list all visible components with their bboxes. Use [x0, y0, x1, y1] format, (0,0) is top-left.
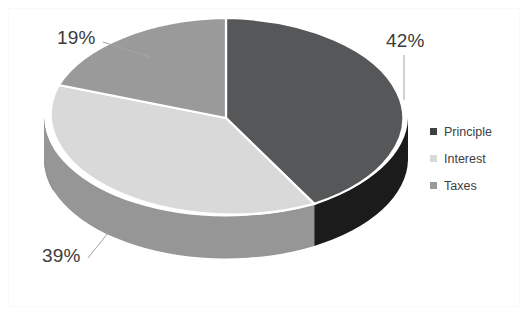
legend-swatch-principle-icon: [430, 128, 437, 135]
data-label-taxes: 19%: [57, 27, 96, 49]
legend-item-interest[interactable]: Interest: [430, 145, 526, 172]
legend-label-interest: Interest: [444, 152, 486, 166]
legend-item-taxes[interactable]: Taxes: [430, 172, 526, 199]
data-label-interest: 39%: [42, 245, 81, 267]
legend-swatch-taxes-icon: [430, 182, 437, 189]
data-label-principle: 42%: [386, 30, 425, 52]
legend-label-principle: Principle: [444, 125, 492, 139]
legend-item-principle[interactable]: Principle: [430, 118, 526, 145]
pie-chart-figure: 42% 19% 39% Principle Interest Taxes: [0, 0, 530, 316]
legend-label-taxes: Taxes: [444, 179, 477, 193]
legend-swatch-interest-icon: [430, 155, 437, 162]
chart-legend: Principle Interest Taxes: [430, 118, 526, 199]
leader-line-interest: [88, 233, 108, 258]
